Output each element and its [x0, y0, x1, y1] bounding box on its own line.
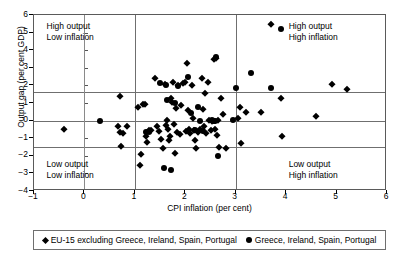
x-tick-mark — [285, 190, 286, 194]
data-point-series-1 — [213, 54, 219, 60]
data-point-series-0 — [278, 94, 284, 100]
y-tick-mark — [29, 155, 33, 156]
reference-line-h-2 — [34, 147, 385, 148]
legend-item-eu15-label: EU-15 excluding Greece, Ireland, Spain, … — [51, 235, 237, 245]
quadrant-label-line: Low output — [47, 159, 94, 170]
data-point-series-0 — [160, 145, 166, 151]
y-tick-mark — [29, 32, 33, 33]
data-point-series-1 — [197, 118, 203, 124]
data-point-series-1 — [175, 83, 181, 89]
y-tick-label: 5 — [14, 26, 28, 36]
quadrant-label-line: Low inflation — [47, 170, 94, 181]
data-point-series-0 — [202, 90, 208, 96]
diamond-marker-icon — [42, 236, 49, 243]
data-point-series-0 — [258, 109, 264, 115]
y-tick-label: 3 — [14, 61, 28, 71]
data-point-series-1 — [233, 85, 239, 91]
data-point-series-0 — [124, 123, 130, 129]
scatter-chart: Output gap (per cent GDP) High outputLow… — [0, 0, 398, 265]
quadrant-label-bottom-left: Low outputLow inflation — [47, 159, 94, 181]
inner-tick — [85, 68, 88, 69]
y-tick-label: −2 — [14, 149, 28, 159]
data-point-series-0 — [158, 136, 164, 142]
inner-tick — [85, 85, 88, 86]
data-point-series-1 — [164, 97, 170, 103]
y-tick-label: 4 — [14, 44, 28, 54]
y-tick-mark — [29, 120, 33, 121]
data-point-series-0 — [279, 133, 285, 139]
inner-tick — [85, 156, 88, 157]
quadrant-label-line: High inflation — [289, 32, 338, 43]
x-tick-mark — [134, 190, 135, 194]
quadrant-label-line: Low inflation — [47, 32, 94, 43]
data-point-series-1 — [212, 118, 218, 124]
x-tick-mark — [336, 190, 337, 194]
x-tick-mark — [235, 190, 236, 194]
quadrant-label-line: High output — [47, 21, 94, 32]
inner-tick — [85, 138, 88, 139]
data-point-series-1 — [97, 118, 103, 124]
quadrant-label-top-left: High outputLow inflation — [47, 21, 94, 43]
y-tick-mark — [29, 67, 33, 68]
reference-line-v-1 — [135, 15, 136, 189]
data-point-series-0 — [268, 21, 274, 27]
data-point-series-1 — [268, 85, 274, 91]
data-point-series-1 — [172, 100, 178, 106]
y-tick-label: −1 — [14, 132, 28, 142]
data-point-series-0 — [156, 128, 162, 134]
data-point-series-0 — [192, 137, 198, 143]
legend-item-gisp: Greece, Ireland, Spain, Portugal — [246, 235, 376, 245]
y-tick-mark — [29, 84, 33, 85]
plot-area: High outputLow inflationHigh outputHigh … — [33, 14, 386, 190]
data-point-series-1 — [248, 70, 254, 76]
data-point-series-0 — [171, 121, 177, 127]
y-tick-mark — [29, 137, 33, 138]
reference-line-v-2 — [236, 15, 237, 189]
y-tick-label: 2 — [14, 79, 28, 89]
data-point-series-0 — [61, 125, 67, 131]
data-point-series-0 — [144, 138, 150, 144]
y-tick-mark — [29, 49, 33, 50]
data-point-series-1 — [215, 153, 221, 159]
quadrant-label-line: High output — [289, 21, 338, 32]
y-tick-label: 1 — [14, 97, 28, 107]
data-point-series-0 — [138, 151, 144, 157]
x-tick-mark — [386, 190, 387, 194]
x-tick-mark — [184, 190, 185, 194]
data-point-series-1 — [161, 165, 167, 171]
data-point-series-0 — [184, 59, 190, 65]
data-point-series-0 — [172, 150, 178, 156]
y-tick-label: 0 — [14, 114, 28, 124]
data-point-series-0 — [328, 81, 334, 87]
chart-legend: EU-15 excluding Greece, Ireland, Spain, … — [33, 230, 386, 250]
data-point-series-0 — [343, 86, 349, 92]
data-point-series-0 — [116, 93, 122, 99]
data-point-series-1 — [163, 82, 169, 88]
y-tick-mark — [29, 102, 33, 103]
data-point-series-1 — [195, 104, 201, 110]
data-point-series-1 — [168, 167, 174, 173]
data-point-series-0 — [205, 79, 211, 85]
data-point-series-0 — [117, 143, 123, 149]
reference-line-h-0 — [34, 92, 385, 93]
data-point-series-1 — [230, 117, 236, 123]
x-tick-mark — [83, 190, 84, 194]
y-tick-label: 6 — [14, 9, 28, 19]
data-point-series-0 — [164, 116, 170, 122]
legend-item-gisp-label: Greece, Ireland, Spain, Portugal — [255, 235, 376, 245]
x-axis-title: CPI inflation (per cent) — [33, 203, 386, 213]
data-point-series-0 — [165, 125, 171, 131]
y-tick-mark — [29, 172, 33, 173]
y-tick-label: −3 — [14, 167, 28, 177]
y-axis-title: Output gap (per cent GDP) — [16, 2, 26, 152]
data-point-series-0 — [219, 111, 225, 117]
data-point-series-0 — [137, 161, 143, 167]
data-point-series-0 — [313, 112, 319, 118]
data-point-series-0 — [236, 104, 242, 110]
data-point-series-1 — [188, 110, 194, 116]
data-point-series-0 — [217, 94, 223, 100]
data-point-series-1 — [185, 74, 191, 80]
data-point-series-0 — [215, 144, 221, 150]
legend-item-eu15: EU-15 excluding Greece, Ireland, Spain, … — [43, 235, 237, 245]
data-point-series-1 — [278, 26, 284, 32]
